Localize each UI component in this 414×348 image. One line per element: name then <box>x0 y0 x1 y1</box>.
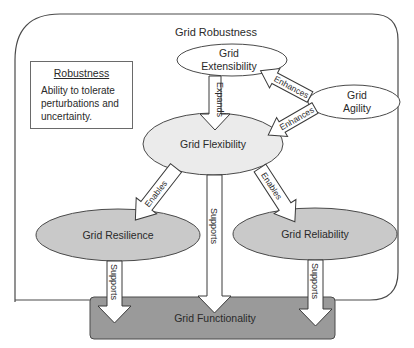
diagram-svg: Grid Functionality Grid Robustness Grid … <box>0 0 414 348</box>
node-agility-line1: Grid <box>347 89 367 101</box>
robustness-definition-title: Robustness <box>31 67 132 79</box>
node-reliability-label: Grid Reliability <box>281 228 349 240</box>
node-extensibility-line2: Extensibility <box>201 60 257 72</box>
edge-supports-reliability-label: Supports <box>310 263 320 300</box>
node-functionality-label: Grid Functionality <box>174 312 256 324</box>
robustness-definition-text: Ability to tolerate perturbations and un… <box>41 84 133 123</box>
robustness-definition-box: Robustness Ability to tolerate perturbat… <box>30 61 133 129</box>
node-extensibility-line1: Grid <box>219 47 239 59</box>
diagram-canvas: Grid Functionality Grid Robustness Grid … <box>0 0 414 348</box>
edge-supports-flexibility-label: Supports <box>209 208 219 245</box>
node-resilience-label: Grid Resilience <box>82 229 153 241</box>
container-title: Grid Robustness <box>175 26 257 38</box>
edge-supports-resilience-label: Supports <box>109 264 119 301</box>
node-agility-line2: Agility <box>343 102 372 114</box>
node-flexibility-label: Grid Flexibility <box>180 138 247 150</box>
edge-expands-label: Expands <box>215 82 225 118</box>
